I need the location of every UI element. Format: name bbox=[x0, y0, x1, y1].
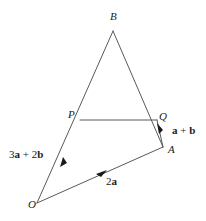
point-label-O: O bbox=[28, 199, 36, 210]
point-label-B: B bbox=[110, 11, 117, 22]
segment-B-to-O bbox=[37, 31, 113, 203]
vector-b-symbol: b bbox=[37, 148, 43, 160]
point-label-Q: Q bbox=[159, 111, 167, 122]
vector-label-3a-plus-2b: 3a + 2b bbox=[9, 149, 43, 160]
arrowhead-aq-toward-Q bbox=[157, 123, 163, 134]
vector-label-a-plus-b: a + b bbox=[172, 125, 195, 136]
diagram-canvas bbox=[0, 0, 206, 221]
vector-b-symbol: b bbox=[189, 124, 195, 136]
vector-a-symbol: a bbox=[112, 175, 118, 187]
operator-plus: + bbox=[178, 124, 190, 136]
segment-B-to-A bbox=[113, 31, 163, 147]
vector-geometry-diagram: B P Q A O a + b 3a + 2b 2a bbox=[0, 0, 206, 221]
arrowhead-op-toward-P bbox=[60, 157, 67, 167]
operator-plus: + bbox=[20, 148, 32, 160]
point-label-P: P bbox=[68, 109, 75, 120]
point-label-A: A bbox=[168, 144, 175, 155]
vector-label-2a: 2a bbox=[106, 176, 117, 187]
